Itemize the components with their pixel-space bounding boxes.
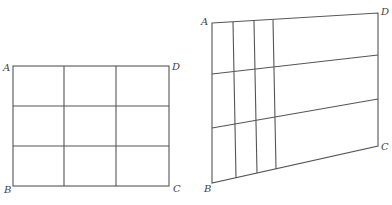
left-label-a: A bbox=[2, 62, 10, 73]
left-grid-figure: A D B C bbox=[2, 61, 181, 195]
right-vertical-line-1 bbox=[233, 22, 236, 178]
right-label-b: B bbox=[203, 183, 211, 194]
right-label-a: A bbox=[200, 16, 208, 27]
left-label-d: D bbox=[171, 61, 180, 72]
right-label-d: D bbox=[380, 6, 389, 17]
diagram-canvas: A D B C A D C B bbox=[0, 0, 392, 205]
right-outer-quadrilateral bbox=[212, 13, 378, 183]
right-vertical-line-3 bbox=[273, 20, 276, 169]
right-slanted-line-1 bbox=[212, 55, 378, 74]
left-label-c: C bbox=[173, 183, 181, 194]
right-slanted-line-2 bbox=[212, 99, 378, 128]
left-label-b: B bbox=[3, 184, 11, 195]
right-label-c: C bbox=[381, 141, 389, 152]
left-outer-rectangle bbox=[13, 66, 169, 186]
right-vertical-line-2 bbox=[254, 21, 257, 173]
right-quad-figure: A D C B bbox=[200, 6, 389, 194]
